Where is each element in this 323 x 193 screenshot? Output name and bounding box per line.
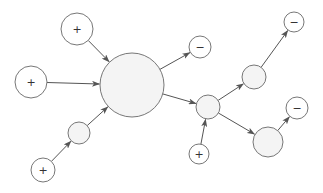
node-hub xyxy=(100,53,164,117)
edge-plus-left-to-hub xyxy=(47,83,100,85)
plus-icon: + xyxy=(194,148,203,161)
node-minus-top-mid: − xyxy=(189,36,211,58)
edge-hub-to-minus-top-mid xyxy=(160,53,190,70)
node-plus-bottom-left: + xyxy=(31,158,55,182)
node-plus-top: + xyxy=(61,13,93,45)
node-circle xyxy=(68,122,90,144)
edge-mid-to-lower-right xyxy=(218,113,254,134)
minus-icon: − xyxy=(292,102,301,115)
node-circle xyxy=(100,53,164,117)
plus-icon: + xyxy=(38,164,47,177)
edge-mid-to-upper-right xyxy=(218,84,243,101)
plus-icon: + xyxy=(72,23,81,36)
node-circle xyxy=(196,95,220,119)
node-plus-bottom: + xyxy=(189,144,209,164)
edge-lower-right-to-minus-right xyxy=(278,117,290,131)
node-upper-right xyxy=(242,65,266,89)
node-circle xyxy=(253,127,283,157)
network-diagram: +++−+−− xyxy=(0,0,323,193)
edge-upper-right-to-minus-top-right xyxy=(261,31,288,68)
node-minus-right: − xyxy=(286,97,308,119)
node-circle xyxy=(242,65,266,89)
edge-small-lower-left-to-hub xyxy=(87,107,108,126)
edge-plus-bottom-to-mid xyxy=(201,119,206,144)
node-minus-top-right: − xyxy=(284,12,304,32)
node-small-lower-left xyxy=(68,122,90,144)
edge-plus-top-to-hub xyxy=(88,40,109,61)
minus-icon: − xyxy=(289,16,298,29)
minus-icon: − xyxy=(195,41,204,54)
nodes-layer: +++−+−− xyxy=(15,12,308,182)
node-plus-left: + xyxy=(15,66,47,98)
node-lower-right xyxy=(253,127,283,157)
plus-icon: + xyxy=(26,76,35,89)
node-mid xyxy=(196,95,220,119)
edge-hub-to-mid xyxy=(163,94,196,104)
edge-plus-bottom-left-to-small-lower-left xyxy=(51,141,71,161)
